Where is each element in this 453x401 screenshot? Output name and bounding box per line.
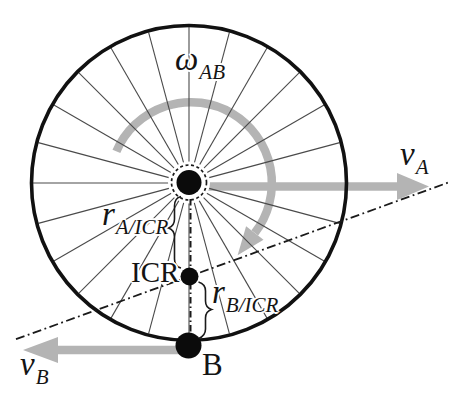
v-b-label: vB <box>20 348 48 381</box>
velocity-a-arrow <box>189 173 429 200</box>
icr-wheel-diagram: ωAB vA vB rA/ICR rB/ICR ICR B <box>0 0 453 401</box>
b-label: B <box>202 349 223 380</box>
diagram-canvas <box>0 0 453 401</box>
icr-label: ICR <box>131 258 179 287</box>
r-b-icr-label: rB/ICR <box>212 276 278 309</box>
r-b-icr-symbol: r <box>212 274 225 310</box>
point-b-dot <box>176 333 202 359</box>
v-a-subscript: A <box>416 157 429 178</box>
omega-ab-symbol: ω <box>175 41 198 77</box>
point-a-hub-dot <box>177 170 202 195</box>
r-a-icr-subscript: A/ICR <box>116 217 169 238</box>
v-b-symbol: v <box>20 346 35 382</box>
v-b-subscript: B <box>36 367 49 388</box>
icr-point-dot <box>181 268 199 286</box>
r-a-icr-symbol: r <box>102 196 115 232</box>
omega-ab-subscript: AB <box>199 62 225 83</box>
r-b-icr-brace <box>199 282 212 339</box>
v-a-label: vA <box>400 138 428 171</box>
v-a-symbol: v <box>400 136 415 172</box>
omega-ab-label: ωAB <box>175 43 225 76</box>
r-b-icr-subscript: B/ICR <box>226 295 279 316</box>
r-a-icr-label: rA/ICR <box>102 198 168 231</box>
